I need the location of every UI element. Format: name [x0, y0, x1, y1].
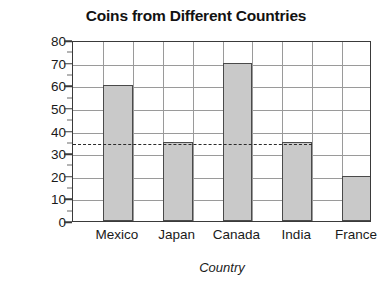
x-tick-label: Mexico	[95, 227, 138, 242]
x-axis-tick-labels: MexicoJapanCanadaIndiaFrance	[72, 227, 371, 251]
y-tick-mark-major	[64, 199, 72, 201]
bar	[342, 176, 371, 221]
y-tick-label: 40	[32, 124, 66, 139]
gridline-vertical	[312, 42, 313, 221]
x-tick-label: Japan	[158, 227, 195, 242]
gridline-vertical	[252, 42, 253, 221]
y-tick-label: 70	[32, 56, 66, 71]
y-tick-label: 80	[32, 34, 66, 49]
x-tick-label: France	[335, 227, 377, 242]
y-axis-tick-labels: 01020304050607080	[28, 41, 66, 222]
y-tick-label: 50	[32, 101, 66, 116]
chart-title: Coins from Different Countries	[0, 7, 392, 25]
x-axis-label: Country	[72, 260, 372, 275]
gridline-horizontal	[73, 65, 370, 66]
y-tick-mark-major	[64, 221, 72, 223]
y-tick-mark-major	[64, 108, 72, 110]
plot-area	[72, 41, 371, 222]
y-axis-tick-marks	[64, 41, 72, 222]
chart-figure: Coins from Different Countries Number of…	[0, 0, 392, 285]
bar	[103, 85, 133, 221]
bar	[282, 142, 312, 221]
y-tick-label: 0	[32, 215, 66, 230]
y-tick-label: 10	[32, 192, 66, 207]
y-tick-mark-major	[64, 176, 72, 178]
y-tick-label: 20	[32, 169, 66, 184]
bar	[163, 142, 193, 221]
gridline-vertical	[193, 42, 194, 221]
reference-line	[73, 144, 312, 145]
y-tick-label: 30	[32, 147, 66, 162]
y-tick-label: 60	[32, 79, 66, 94]
x-tick-label: India	[282, 227, 311, 242]
y-tick-mark-major	[64, 131, 72, 133]
bar	[223, 63, 253, 221]
gridline-vertical	[133, 42, 134, 221]
y-tick-mark-major	[64, 153, 72, 155]
y-tick-mark-major	[64, 40, 72, 42]
y-tick-mark-major	[64, 63, 72, 65]
x-tick-label: Canada	[213, 227, 260, 242]
y-tick-mark-major	[64, 86, 72, 88]
